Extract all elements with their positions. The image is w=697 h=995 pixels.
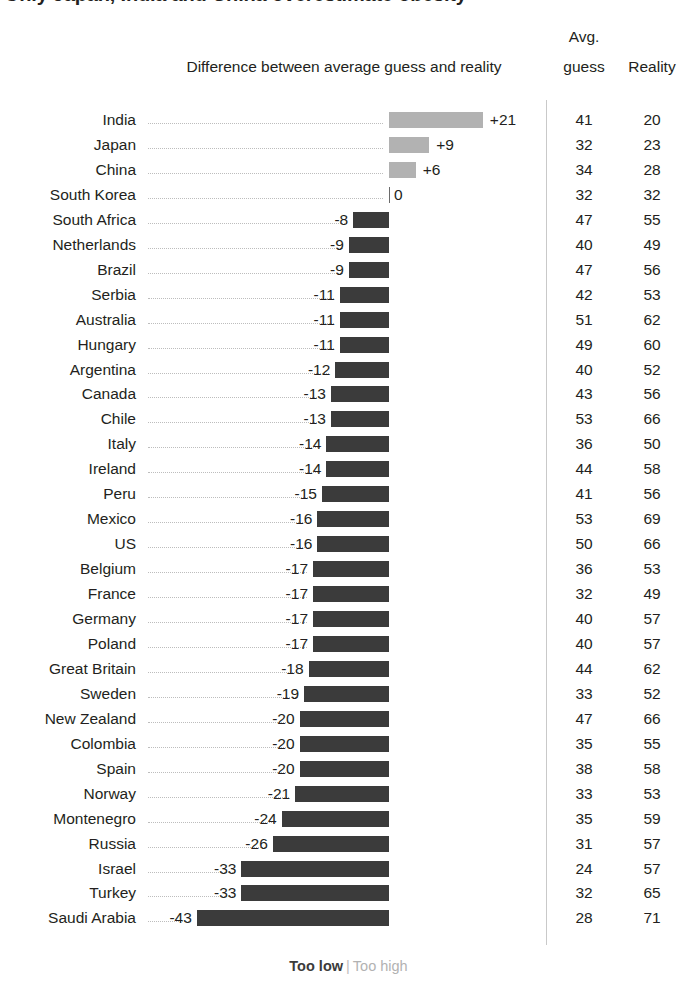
bar-negative [273, 836, 389, 852]
reality-value: 50 [616, 434, 688, 453]
avg-guess-value: 49 [556, 335, 612, 354]
reality-value: 57 [616, 859, 688, 878]
bar-positive [389, 137, 429, 153]
avg-guess-value: 53 [556, 509, 612, 528]
avg-guess-value: 36 [556, 434, 612, 453]
difference-value: +21 [490, 110, 516, 129]
avg-guess-value: 47 [556, 210, 612, 229]
avg-guess-value: 44 [556, 659, 612, 678]
reality-value: 57 [616, 634, 688, 653]
table-row: South Korea03232 [0, 183, 697, 208]
bar-negative [349, 262, 389, 278]
avg-guess-value: 40 [556, 235, 612, 254]
difference-value: -13 [0, 409, 326, 428]
difference-value: -33 [0, 859, 236, 878]
avg-guess-value: 38 [556, 759, 612, 778]
bar-negative [304, 686, 389, 702]
avg-guess-value: 47 [556, 709, 612, 728]
difference-value: -11 [0, 285, 335, 304]
bar-negative [340, 337, 389, 353]
leader-line [148, 148, 383, 150]
avg-guess-value: 33 [556, 784, 612, 803]
table-row: Peru-154156 [0, 482, 697, 507]
table-row: Russia-263157 [0, 832, 697, 857]
bar-negative [331, 386, 389, 402]
leader-line [148, 123, 383, 125]
country-label: South Korea [0, 185, 136, 204]
avg-guess-value: 51 [556, 310, 612, 329]
reality-value: 62 [616, 310, 688, 329]
difference-value: -20 [0, 759, 295, 778]
difference-value: -19 [0, 684, 299, 703]
leader-line [148, 173, 383, 175]
difference-value: -14 [0, 434, 321, 453]
reality-value: 52 [616, 360, 688, 379]
reality-value: 53 [616, 285, 688, 304]
avg-guess-value: 40 [556, 634, 612, 653]
table-row: China+63428 [0, 158, 697, 183]
bar-negative [300, 761, 389, 777]
difference-value: -8 [0, 210, 348, 229]
difference-value: -12 [0, 360, 330, 379]
bar-negative [241, 861, 389, 877]
bar-negative [313, 561, 389, 577]
table-row: Italy-143650 [0, 432, 697, 457]
avg-guess-value: 43 [556, 384, 612, 403]
difference-value: -20 [0, 734, 295, 753]
bar-negative [331, 411, 389, 427]
country-label: Japan [0, 135, 136, 154]
table-row: Turkey-333265 [0, 881, 697, 906]
reality-value: 55 [616, 734, 688, 753]
table-row: Ireland-144458 [0, 457, 697, 482]
avg-guess-value: 35 [556, 809, 612, 828]
reality-value: 32 [616, 185, 688, 204]
reality-value: 49 [616, 235, 688, 254]
bar-negative [353, 212, 389, 228]
avg-guess-value: 32 [556, 584, 612, 603]
column-header-avg-line2: guess [556, 58, 612, 76]
legend-too-high: Too high [353, 958, 408, 974]
table-row: Spain-203858 [0, 757, 697, 782]
difference-value: -21 [0, 784, 290, 803]
column-header-avg-line1: Avg. [556, 28, 612, 46]
difference-value: +6 [423, 160, 441, 179]
bar-negative [197, 910, 389, 926]
difference-value: -9 [0, 235, 344, 254]
table-row: Great Britain-184462 [0, 657, 697, 682]
table-row: New Zealand-204766 [0, 707, 697, 732]
reality-value: 28 [616, 160, 688, 179]
bar-negative [282, 811, 389, 827]
reality-value: 57 [616, 609, 688, 628]
reality-value: 53 [616, 559, 688, 578]
difference-value: -17 [0, 609, 308, 628]
bar-negative [295, 786, 389, 802]
avg-guess-value: 36 [556, 559, 612, 578]
table-row: Australia-115162 [0, 308, 697, 333]
bar-negative [309, 661, 389, 677]
reality-value: 49 [616, 584, 688, 603]
bar-negative [335, 362, 389, 378]
table-row: Brazil-94756 [0, 258, 697, 283]
table-row: Canada-134356 [0, 382, 697, 407]
bar-negative [300, 711, 389, 727]
difference-value: -26 [0, 834, 268, 853]
column-header-difference: Difference between average guess and rea… [150, 58, 538, 76]
difference-value: -17 [0, 634, 308, 653]
bar-negative [340, 312, 389, 328]
reality-value: 58 [616, 759, 688, 778]
difference-value: -33 [0, 883, 236, 902]
reality-value: 66 [616, 534, 688, 553]
reality-value: 71 [616, 908, 688, 927]
legend-too-low: Too low [289, 958, 343, 974]
table-row: Saudi Arabia-432871 [0, 906, 697, 931]
reality-value: 56 [616, 484, 688, 503]
avg-guess-value: 41 [556, 110, 612, 129]
table-row: South Africa-84755 [0, 208, 697, 233]
avg-guess-value: 41 [556, 484, 612, 503]
difference-value: -16 [0, 509, 312, 528]
avg-guess-value: 24 [556, 859, 612, 878]
reality-value: 65 [616, 883, 688, 902]
bar-negative [326, 461, 389, 477]
reality-value: 56 [616, 260, 688, 279]
bar-negative [313, 636, 389, 652]
